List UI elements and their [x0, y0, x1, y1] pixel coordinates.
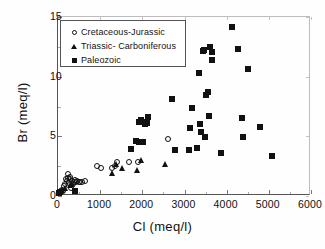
data-point: [245, 66, 251, 72]
data-point: [172, 147, 178, 153]
data-point: [239, 115, 245, 121]
data-point: [72, 188, 78, 194]
data-point: [98, 165, 104, 171]
data-point: [218, 150, 224, 156]
scatter-plot-figure: Br (meq/l) Cl (meq/l) Cretaceous-Jurassi…: [0, 0, 325, 249]
data-point: [126, 159, 132, 165]
data-point: [57, 189, 63, 195]
data-point: [189, 105, 195, 111]
legend-item-triassic-carboniferous: Triassic- Carboniferous: [67, 39, 185, 53]
data-point: [202, 134, 208, 140]
y-axis-title: Br (meq/l): [15, 53, 30, 173]
y-axis-tick: [306, 136, 309, 137]
data-point: [197, 121, 203, 127]
data-point: [205, 89, 211, 95]
x-axis-tick: [227, 17, 228, 20]
y-axis-tick: [306, 77, 309, 78]
data-point: [165, 136, 171, 142]
data-point: [144, 120, 150, 126]
data-point: [235, 46, 241, 52]
data-point: [187, 125, 193, 131]
y-axis-tick-label: 15: [50, 10, 62, 22]
x-axis-tick-label: 3000: [171, 198, 195, 210]
data-point: [209, 57, 215, 63]
x-axis-tick-label: 2000: [129, 198, 153, 210]
x-axis-minor-tick: [290, 192, 291, 195]
x-axis-tick: [142, 190, 143, 194]
y-axis-tick: [58, 136, 62, 137]
x-axis-tick: [185, 190, 186, 194]
y-axis-minor-tick: [58, 107, 61, 108]
legend-item-cretaceous-jurassic: Cretaceous-Jurassic: [67, 25, 185, 39]
y-axis-minor-tick: [58, 166, 61, 167]
filled-square-icon: [67, 58, 81, 63]
data-point: [69, 181, 75, 187]
x-axis-minor-tick: [121, 192, 122, 195]
data-point: [109, 170, 115, 176]
y-axis-tick: [58, 196, 62, 197]
chart-legend: Cretaceous-Jurassic Triassic- Carbonifer…: [60, 20, 186, 67]
data-point: [169, 96, 175, 102]
legend-item-paleozoic: Paleozoic: [67, 53, 185, 67]
data-point: [128, 146, 134, 152]
data-point: [194, 145, 200, 151]
filled-triangle-icon: [67, 44, 81, 49]
x-axis-minor-tick: [79, 192, 80, 195]
y-axis-tick: [306, 196, 309, 197]
data-point: [257, 124, 263, 130]
data-point: [134, 167, 140, 173]
x-axis-minor-tick: [163, 192, 164, 195]
data-point: [119, 165, 125, 171]
data-point: [162, 161, 168, 167]
data-point: [186, 147, 192, 153]
y-axis-tick-label: 10: [50, 70, 62, 82]
data-point: [145, 114, 151, 120]
legend-label: Cretaceous-Jurassic: [81, 27, 165, 37]
open-circle-icon: [67, 30, 81, 35]
legend-label: Paleozoic: [81, 55, 121, 65]
x-axis-tick: [227, 190, 228, 194]
x-axis-tick: [311, 17, 312, 20]
x-axis-tick-label: 1000: [87, 198, 111, 210]
x-axis-tick-label: 5000: [256, 198, 280, 210]
x-axis-tick-label: 4000: [214, 198, 238, 210]
data-point: [196, 70, 202, 76]
legend-label: Triassic- Carboniferous: [81, 41, 176, 51]
x-axis-title: Cl (meq/l): [0, 219, 325, 234]
data-point: [140, 139, 146, 145]
data-point: [206, 113, 212, 119]
x-axis-tick: [100, 190, 101, 194]
y-axis-tick-label: 5: [50, 129, 56, 141]
data-point: [269, 153, 275, 159]
data-point: [82, 178, 88, 184]
x-axis-tick: [269, 17, 270, 20]
data-point: [209, 49, 215, 55]
y-axis-tick: [306, 17, 309, 18]
x-axis-tick: [269, 190, 270, 194]
data-point: [138, 157, 144, 163]
x-axis-minor-tick: [248, 192, 249, 195]
x-axis-minor-tick: [206, 192, 207, 195]
x-axis-tick: [311, 190, 312, 194]
x-axis-tick-label: 6000: [298, 198, 322, 210]
data-point: [240, 134, 246, 140]
data-point: [229, 24, 235, 30]
